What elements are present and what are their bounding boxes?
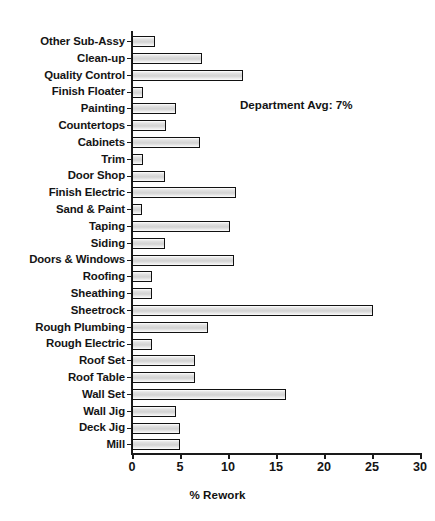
chart-row: Sheathing xyxy=(132,285,420,303)
x-axis-tick-label: 25 xyxy=(365,461,379,474)
category-label: Painting xyxy=(81,103,125,114)
chart-row: Doors & Windows xyxy=(132,251,420,269)
category-label: Sheetrock xyxy=(71,305,125,316)
category-label: Door Shop xyxy=(68,170,125,181)
chart-row: Taping xyxy=(132,218,420,236)
category-label: Roof Set xyxy=(79,355,125,366)
chart-row: Quality Control xyxy=(132,67,420,85)
bar xyxy=(132,137,200,148)
bar xyxy=(132,305,373,316)
chart-row: Cabinets xyxy=(132,134,420,152)
category-label: Rough Electric xyxy=(46,338,125,349)
category-label: Clean-up xyxy=(77,53,125,64)
bar xyxy=(132,271,152,282)
x-axis-tick xyxy=(324,453,326,459)
category-label: Taping xyxy=(89,221,125,232)
chart-row: Clean-up xyxy=(132,50,420,68)
chart-row: Sheetrock xyxy=(132,302,420,320)
bar xyxy=(132,238,165,249)
bar xyxy=(132,339,152,350)
x-axis-tick-label: 5 xyxy=(176,461,183,474)
x-axis-tick xyxy=(180,453,182,459)
chart-row: Rough Electric xyxy=(132,335,420,353)
bar xyxy=(132,221,230,232)
chart-row: Rough Plumbing xyxy=(132,319,420,337)
category-label: Doors & Windows xyxy=(29,254,125,265)
category-label: Sheathing xyxy=(71,288,125,299)
chart-row: Roof Set xyxy=(132,352,420,370)
chart-row: Deck Jig xyxy=(132,419,420,437)
bar xyxy=(132,204,142,215)
category-label: Quality Control xyxy=(44,70,125,81)
category-label: Finish Floater xyxy=(52,86,125,97)
chart-row: Other Sub-Assy xyxy=(132,33,420,51)
chart-row: Mill xyxy=(132,436,420,454)
bar xyxy=(132,36,155,47)
bar xyxy=(132,154,143,165)
x-axis-tick-label: 0 xyxy=(128,461,135,474)
x-axis-tick-label: 10 xyxy=(221,461,235,474)
chart-row: Finish Electric xyxy=(132,184,420,202)
category-label: Roof Table xyxy=(68,372,125,383)
bar xyxy=(132,53,202,64)
category-label: Finish Electric xyxy=(49,187,125,198)
chart-row: Door Shop xyxy=(132,167,420,185)
bar xyxy=(132,120,166,131)
category-label: Wall Jig xyxy=(83,406,125,417)
bar xyxy=(132,288,152,299)
chart-row: Roof Table xyxy=(132,369,420,387)
bar xyxy=(132,406,176,417)
chart-row: Roofing xyxy=(132,268,420,286)
bar xyxy=(132,439,180,450)
category-label: Rough Plumbing xyxy=(35,322,125,333)
bar xyxy=(132,322,208,333)
bar xyxy=(132,87,143,98)
bar xyxy=(132,355,195,366)
chart-row: Wall Jig xyxy=(132,403,420,421)
x-axis-tick xyxy=(372,453,374,459)
category-label: Sand & Paint xyxy=(56,204,125,215)
category-label: Roofing xyxy=(83,271,125,282)
category-label: Deck Jig xyxy=(79,422,125,433)
category-label: Trim xyxy=(101,154,125,165)
x-axis-tick-label: 20 xyxy=(317,461,331,474)
bar xyxy=(132,255,234,266)
chart-row: Siding xyxy=(132,235,420,253)
plot-area: Other Sub-AssyClean-upQuality ControlFin… xyxy=(132,33,420,453)
category-label: Countertops xyxy=(58,120,125,131)
x-axis-tick xyxy=(132,453,134,459)
x-axis-tick-label: 15 xyxy=(269,461,283,474)
bar xyxy=(132,171,165,182)
category-label: Other Sub-Assy xyxy=(40,36,125,47)
x-axis-tick xyxy=(276,453,278,459)
rework-bar-chart: Other Sub-AssyClean-upQuality ControlFin… xyxy=(0,0,435,521)
category-label: Siding xyxy=(91,238,125,249)
bar xyxy=(132,423,180,434)
x-axis-title: % Rework xyxy=(0,488,435,501)
bar xyxy=(132,70,243,81)
bar xyxy=(132,389,286,400)
bar xyxy=(132,372,195,383)
category-label: Wall Set xyxy=(82,389,125,400)
bar xyxy=(132,187,236,198)
x-axis-tick-label: 30 xyxy=(413,461,427,474)
chart-row: Sand & Paint xyxy=(132,201,420,219)
bar xyxy=(132,103,176,114)
category-label: Cabinets xyxy=(78,137,125,148)
chart-row: Wall Set xyxy=(132,386,420,404)
x-axis-tick xyxy=(228,453,230,459)
chart-row: Trim xyxy=(132,151,420,169)
chart-row: Countertops xyxy=(132,117,420,135)
category-label: Mill xyxy=(106,439,125,450)
department-average-annotation: Department Avg: 7% xyxy=(240,99,353,111)
x-axis-tick xyxy=(420,453,422,459)
